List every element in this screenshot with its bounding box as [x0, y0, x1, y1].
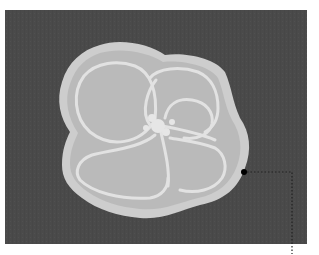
marker-dot — [241, 169, 247, 175]
micrograph-svg — [0, 0, 319, 255]
micrograph-figure — [0, 0, 319, 255]
